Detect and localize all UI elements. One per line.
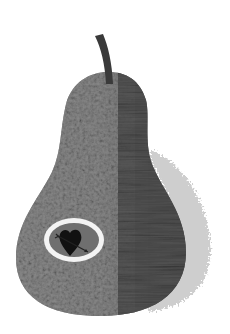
pear-svg (0, 0, 230, 334)
heart-inset (44, 218, 104, 262)
pear-illustration (0, 0, 230, 334)
